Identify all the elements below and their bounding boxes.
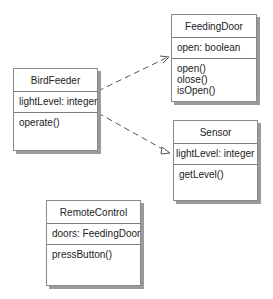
attribute: open: boolean bbox=[177, 42, 251, 54]
class-name: RemoteControl bbox=[47, 201, 140, 224]
class-birdfeeder[interactable]: BirdFeeder lightLevel: integer operate() bbox=[13, 68, 98, 151]
dependency-birdfeeder-feedingdoor bbox=[98, 57, 168, 91]
class-attributes: lightLevel: integer bbox=[174, 144, 257, 165]
operation: pressButton() bbox=[52, 249, 135, 260]
class-sensor[interactable]: Sensor lightLevel: integer getLevel() bbox=[173, 120, 258, 201]
operation: isOpen() bbox=[177, 85, 251, 96]
class-name: Sensor bbox=[174, 121, 257, 144]
class-feedingdoor[interactable]: FeedingDoor open: boolean open() olose()… bbox=[171, 14, 257, 102]
class-name: FeedingDoor bbox=[172, 15, 256, 38]
operation: operate() bbox=[19, 117, 92, 128]
class-operations: pressButton() bbox=[47, 245, 140, 264]
class-attributes: open: boolean bbox=[172, 38, 256, 59]
class-remotecontrol[interactable]: RemoteControl doors: FeedingDoor pressBu… bbox=[46, 200, 141, 286]
class-operations: operate() bbox=[14, 113, 97, 132]
operation: open() bbox=[177, 63, 251, 74]
dependency-birdfeeder-sensor bbox=[98, 113, 168, 152]
class-name: BirdFeeder bbox=[14, 69, 97, 92]
operation: getLevel() bbox=[179, 169, 252, 180]
attribute: lightLevel: integer bbox=[176, 148, 252, 160]
class-operations: open() olose() isOpen() bbox=[172, 59, 256, 100]
operation: olose() bbox=[177, 74, 251, 85]
class-operations: getLevel() bbox=[174, 165, 257, 184]
arrowhead-open-icon bbox=[160, 56, 169, 63]
attribute: lightLevel: integer bbox=[19, 96, 92, 108]
attribute: doors: FeedingDoor bbox=[52, 228, 135, 240]
arrowhead-triangle-icon bbox=[161, 147, 170, 154]
class-attributes: doors: FeedingDoor bbox=[47, 224, 140, 245]
class-attributes: lightLevel: integer bbox=[14, 92, 97, 113]
